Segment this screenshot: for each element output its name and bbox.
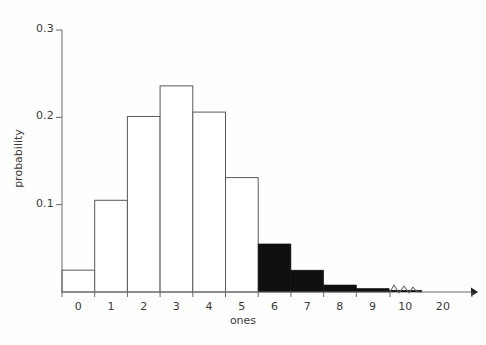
histogram-bar: [193, 112, 226, 292]
histogram-bar: [226, 178, 259, 292]
y-axis-title: probability: [12, 119, 25, 199]
histogram-bar: [160, 86, 193, 292]
histogram-bar: [324, 285, 357, 292]
y-tick-label: 0.1: [6, 197, 54, 210]
x-tick-label: 20: [423, 300, 463, 313]
histogram-bar: [258, 244, 291, 292]
histogram-bar: [127, 116, 160, 292]
x-tick-label: 10: [385, 300, 425, 313]
y-tick-label: 0.3: [6, 22, 54, 35]
x-axis-title: ones: [0, 314, 486, 327]
histogram-bar: [291, 270, 324, 292]
histogram-chart: [0, 0, 486, 345]
histogram-bar: [356, 289, 389, 292]
bars-layer: [62, 86, 422, 292]
histogram-bar: [95, 200, 128, 292]
histogram-bar: [62, 270, 95, 292]
